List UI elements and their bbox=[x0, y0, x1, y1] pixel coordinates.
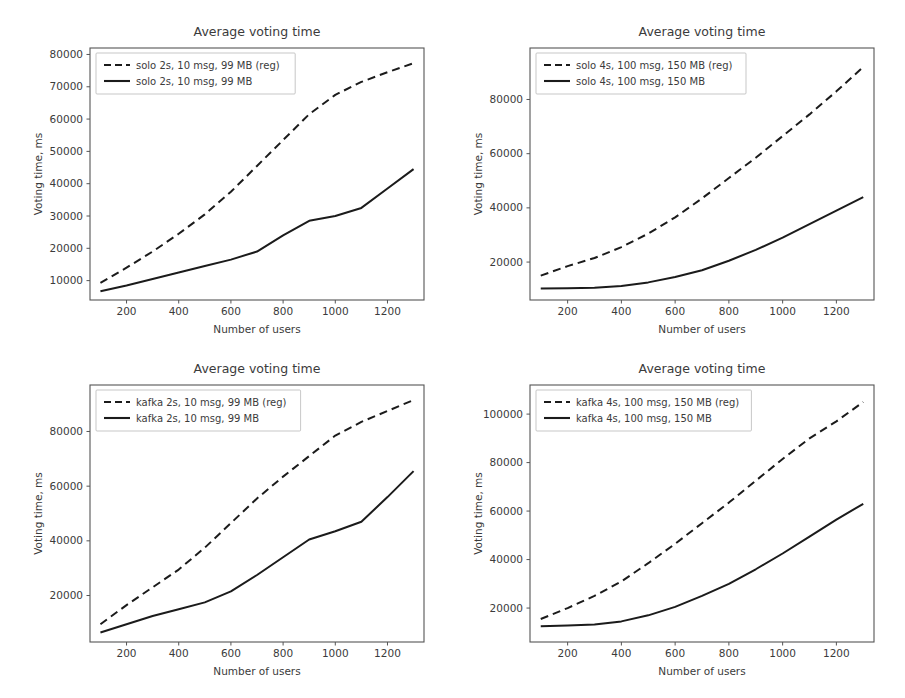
legend-label: solo 2s, 10 msg, 99 MB bbox=[136, 76, 252, 87]
y-tick-label: 20000 bbox=[490, 256, 523, 268]
y-tick-label: 60000 bbox=[490, 505, 523, 517]
y-tick-label: 60000 bbox=[490, 147, 523, 159]
x-tick-label: 1200 bbox=[374, 305, 401, 317]
x-tick-label: 1000 bbox=[769, 305, 796, 317]
legend-label: solo 4s, 100 msg, 150 MB bbox=[576, 76, 705, 87]
chart-title: Average voting time bbox=[194, 24, 321, 39]
chart-solo-4s: Average voting time200400600800100012002… bbox=[452, 18, 892, 348]
chart-kafka-4s: Average voting time200400600800100012002… bbox=[452, 355, 892, 690]
y-tick-label: 40000 bbox=[50, 534, 83, 546]
x-tick-label: 800 bbox=[719, 647, 739, 659]
x-tick-label: 200 bbox=[117, 647, 137, 659]
x-axis-label: Number of users bbox=[213, 665, 300, 677]
y-tick-label: 30000 bbox=[50, 210, 83, 222]
chart-title: Average voting time bbox=[194, 361, 321, 376]
y-tick-label: 80000 bbox=[50, 425, 83, 437]
x-tick-label: 400 bbox=[169, 647, 189, 659]
x-tick-label: 800 bbox=[719, 305, 739, 317]
x-tick-label: 800 bbox=[273, 305, 293, 317]
x-tick-label: 200 bbox=[117, 305, 137, 317]
y-axis-label: Voting time, ms bbox=[472, 133, 484, 216]
x-tick-label: 400 bbox=[169, 305, 189, 317]
x-tick-label: 600 bbox=[665, 647, 685, 659]
legend-label: kafka 4s, 100 msg, 150 MB bbox=[576, 413, 712, 424]
legend-label: solo 2s, 10 msg, 99 MB (reg) bbox=[136, 60, 280, 71]
x-tick-label: 1200 bbox=[823, 305, 850, 317]
series-reg bbox=[100, 63, 413, 283]
x-tick-label: 200 bbox=[558, 647, 578, 659]
legend-label: kafka 2s, 10 msg, 99 MB bbox=[136, 413, 259, 424]
chart-solo-4s-svg: Average voting time200400600800100012002… bbox=[452, 18, 892, 348]
x-tick-label: 1200 bbox=[374, 647, 401, 659]
y-tick-label: 50000 bbox=[50, 145, 83, 157]
x-axis-label: Number of users bbox=[658, 323, 745, 335]
chart-kafka-2s: Average voting time200400600800100012002… bbox=[12, 355, 442, 690]
y-tick-label: 80000 bbox=[490, 93, 523, 105]
y-tick-label: 20000 bbox=[50, 242, 83, 254]
y-tick-label: 70000 bbox=[50, 80, 83, 92]
chart-title: Average voting time bbox=[639, 361, 766, 376]
x-axis-label: Number of users bbox=[658, 665, 745, 677]
x-tick-label: 1000 bbox=[322, 305, 349, 317]
y-tick-label: 20000 bbox=[490, 602, 523, 614]
series-reg bbox=[100, 400, 413, 624]
y-tick-label: 40000 bbox=[490, 201, 523, 213]
y-tick-label: 60000 bbox=[50, 113, 83, 125]
x-tick-label: 200 bbox=[558, 305, 578, 317]
y-tick-label: 20000 bbox=[50, 589, 83, 601]
y-tick-label: 60000 bbox=[50, 480, 83, 492]
figure-canvas: Average voting time200400600800100012001… bbox=[0, 0, 905, 698]
x-tick-label: 400 bbox=[611, 647, 631, 659]
y-axis-label: Voting time, ms bbox=[32, 472, 44, 555]
series-base bbox=[541, 197, 864, 289]
legend-label: kafka 4s, 100 msg, 150 MB (reg) bbox=[576, 397, 739, 408]
legend-label: solo 4s, 100 msg, 150 MB (reg) bbox=[576, 60, 732, 71]
y-tick-label: 40000 bbox=[490, 553, 523, 565]
y-tick-label: 100000 bbox=[483, 408, 523, 420]
chart-kafka-2s-svg: Average voting time200400600800100012002… bbox=[12, 355, 442, 690]
y-tick-label: 80000 bbox=[50, 48, 83, 60]
series-base bbox=[100, 471, 413, 632]
x-tick-label: 1200 bbox=[823, 647, 850, 659]
x-tick-label: 600 bbox=[221, 305, 241, 317]
x-tick-label: 1000 bbox=[769, 647, 796, 659]
chart-solo-2s: Average voting time200400600800100012001… bbox=[12, 18, 442, 348]
x-tick-label: 800 bbox=[273, 647, 293, 659]
x-axis-label: Number of users bbox=[213, 323, 300, 335]
x-tick-label: 400 bbox=[611, 305, 631, 317]
series-reg bbox=[541, 67, 864, 276]
y-tick-label: 40000 bbox=[50, 177, 83, 189]
y-tick-label: 10000 bbox=[50, 274, 83, 286]
chart-solo-2s-svg: Average voting time200400600800100012001… bbox=[12, 18, 442, 348]
y-axis-label: Voting time, ms bbox=[472, 472, 484, 555]
chart-title: Average voting time bbox=[639, 24, 766, 39]
series-reg bbox=[541, 402, 864, 619]
x-tick-label: 1000 bbox=[322, 647, 349, 659]
y-axis-label: Voting time, ms bbox=[32, 133, 44, 216]
x-tick-label: 600 bbox=[221, 647, 241, 659]
legend-label: kafka 2s, 10 msg, 99 MB (reg) bbox=[136, 397, 287, 408]
series-base bbox=[100, 169, 413, 291]
y-tick-label: 80000 bbox=[490, 456, 523, 468]
chart-kafka-4s-svg: Average voting time200400600800100012002… bbox=[452, 355, 892, 690]
x-tick-label: 600 bbox=[665, 305, 685, 317]
